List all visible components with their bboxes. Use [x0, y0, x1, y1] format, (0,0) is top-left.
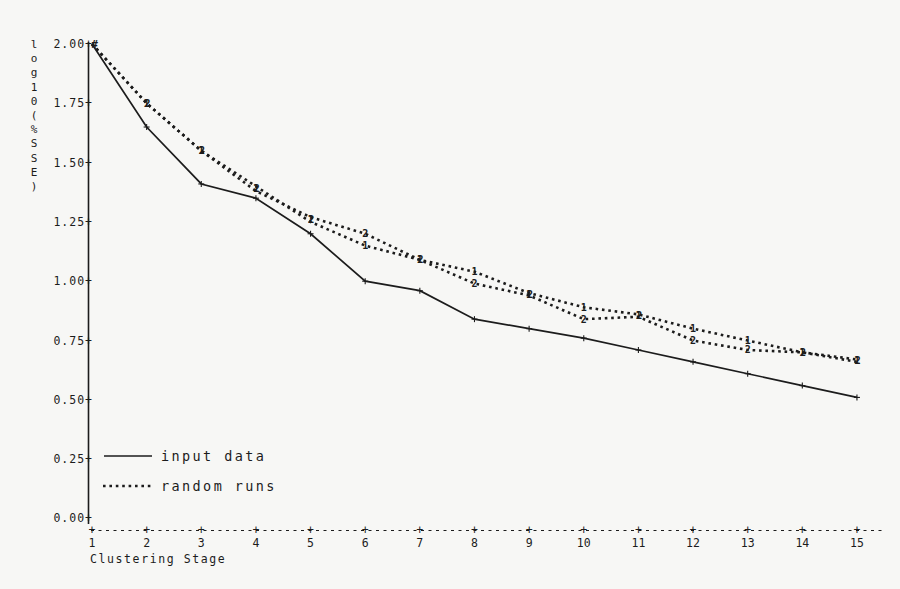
y-axis-title-char: o [31, 52, 38, 65]
x-tick-label: 1 [89, 536, 96, 550]
y-axis-title-char: ) [31, 180, 38, 193]
x-tick-label: 12 [686, 536, 700, 550]
x-tick-label: 10 [577, 536, 591, 550]
run-overlap-marker: 2 [527, 289, 533, 300]
run1-point-label: 1 [362, 240, 368, 251]
y-tick-label: 1.75+ [53, 96, 93, 110]
legend-label-random-runs: random runs [161, 478, 277, 494]
x-tick-label: 8 [471, 536, 478, 550]
y-tick-label: 0.00+ [53, 511, 93, 525]
run-overlap-marker: 2 [308, 214, 314, 225]
y-tick-label: 1.50+ [53, 156, 93, 170]
x-tick-label: 11 [631, 536, 645, 550]
x-tick-label: 13 [741, 536, 755, 550]
y-tick-label: 0.25+ [53, 452, 93, 466]
run-overlap-marker: 2 [199, 145, 205, 156]
y-tick-label: 1.00+ [53, 274, 93, 288]
y-axis: 0.00+0.25+0.50+0.75+1.00+1.25+1.50+1.75+… [53, 37, 93, 525]
y-axis-title-char: 0 [31, 95, 38, 108]
run2-point-label: 2 [690, 335, 696, 346]
y-axis-title-char: 1 [31, 81, 38, 94]
x-axis-title: Clustering Stage [90, 552, 226, 566]
run2-point-label: 2 [581, 314, 587, 325]
run-overlap-marker: 2 [144, 98, 150, 109]
x-tick-label: 7 [416, 536, 423, 550]
run1-point-label: 1 [690, 323, 696, 334]
x-tick-label: 14 [795, 536, 809, 550]
y-axis-title-char: l [31, 38, 38, 51]
y-axis-title: log10(%SSE) [31, 38, 38, 193]
run-overlap-marker: 2 [254, 183, 260, 194]
x-tick-label: 6 [362, 536, 369, 550]
y-axis-title-char: g [31, 66, 38, 79]
run-overlap-marker: 2 [800, 347, 806, 358]
y-axis-title-char: E [31, 166, 38, 179]
run1-point-label: 1 [581, 302, 587, 313]
origin-overlap-marker: # [91, 38, 98, 51]
run-overlap-marker: 2 [636, 310, 642, 321]
y-axis-title-char: ( [31, 109, 38, 122]
scanned-plot-page: 0.00+0.25+0.50+0.75+1.00+1.25+1.50+1.75+… [0, 0, 900, 589]
y-tick-label: 2.00+ [53, 37, 93, 51]
x-tick-label: 4 [252, 536, 259, 550]
x-tick-label: 15 [850, 536, 864, 550]
clustering-sse-chart: 0.00+0.25+0.50+0.75+1.00+1.25+1.50+1.75+… [0, 0, 900, 589]
legend-label-input-data: input data [161, 448, 266, 464]
y-tick-label: 0.75+ [53, 334, 93, 348]
y-axis-title-char: S [31, 152, 38, 165]
run2-point-label: 2 [471, 278, 477, 289]
paper-background [0, 0, 900, 589]
x-tick-label: 3 [198, 536, 205, 550]
y-tick-label: 0.50+ [53, 393, 93, 407]
run-overlap-marker: 2 [418, 254, 424, 265]
x-tick-label: 5 [307, 536, 314, 550]
run1-point-label: 1 [471, 266, 477, 277]
y-axis-title-char: % [31, 123, 38, 136]
run2-point-label: 2 [362, 228, 368, 239]
x-tick-label: 2 [143, 536, 150, 550]
run2-point-label: 2 [745, 344, 751, 355]
x-tick-label: 9 [526, 536, 533, 550]
y-axis-title-char: S [31, 137, 38, 150]
run-overlap-marker: 2 [855, 355, 861, 366]
y-tick-label: 1.25+ [53, 215, 93, 229]
